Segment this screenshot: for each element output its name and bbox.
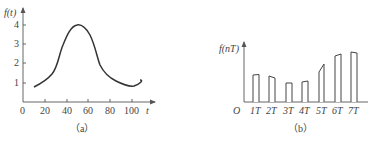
x-tick-label: 7T xyxy=(348,105,360,116)
chart-b-bar-7T xyxy=(351,52,357,102)
x-tick-label: 100 xyxy=(124,105,139,116)
x-tick-label: 20 xyxy=(40,105,50,116)
chart-b-bar-3T xyxy=(286,83,292,102)
x-tick-label: 40 xyxy=(62,105,72,116)
chart-a-y-label: f(t) xyxy=(4,7,17,19)
caption-a: （a） xyxy=(70,123,94,134)
x-tick-label: 2T xyxy=(266,105,278,116)
x-tick-label: 80 xyxy=(105,105,115,116)
x-tick-label: 3T xyxy=(282,105,295,116)
chart-b-origin-label: O xyxy=(233,105,240,116)
chart-b-bar-2T xyxy=(269,76,275,102)
x-tick-label: 0 xyxy=(20,105,25,116)
x-tick-label: 1T xyxy=(250,105,262,116)
x-tick-label: 6T xyxy=(332,105,344,116)
y-tick-label: 3 xyxy=(14,38,19,49)
y-tick-label: 2 xyxy=(14,57,19,68)
chart-b: f(nT) O 1T 2T 3T 4T 5T 6T 7T xyxy=(219,42,368,116)
chart-b-bar-1T xyxy=(253,75,259,103)
chart-b-y-label: f(nT) xyxy=(219,43,240,55)
y-tick-label: 4 xyxy=(14,19,19,30)
chart-b-x-ticks: 1T 2T 3T 4T 5T 6T 7T xyxy=(250,105,360,116)
x-tick-label: 5T xyxy=(316,105,328,116)
chart-a-y-ticks: 4 3 2 1 xyxy=(14,19,26,88)
figure-canvas: 4 3 2 1 0 20 40 60 80 100 f(t) t f(nT) O xyxy=(0,0,368,142)
chart-a: 4 3 2 1 0 20 40 60 80 100 f(t) t xyxy=(4,7,155,116)
x-tick-label: 4T xyxy=(299,105,311,116)
chart-a-x-label: t xyxy=(146,105,149,116)
y-tick-label: 1 xyxy=(14,77,19,88)
chart-b-bar-4T xyxy=(302,81,308,102)
caption-b: （b） xyxy=(288,123,313,134)
chart-a-curve xyxy=(34,25,142,87)
chart-b-bar-6T xyxy=(335,54,341,102)
chart-b-bar-5T xyxy=(319,64,324,102)
x-tick-label: 60 xyxy=(83,105,93,116)
